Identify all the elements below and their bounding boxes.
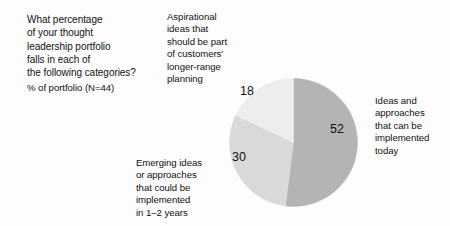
slice-label-aspirational: Aspirational ideas that should be part o… xyxy=(167,11,247,85)
slice-value-today: 52 xyxy=(330,123,344,136)
chart-canvas: What percentage of your thought leadersh… xyxy=(0,0,450,226)
slice-value-aspirational: 18 xyxy=(240,85,254,98)
chart-subtitle: % of portfolio (N=44) xyxy=(27,82,177,94)
page-title: What percentage of your thought leadersh… xyxy=(27,13,177,79)
pie-slice-today xyxy=(285,79,357,207)
slice-value-emerging: 30 xyxy=(232,151,246,164)
slice-label-emerging: Emerging ideas or approaches that could … xyxy=(136,157,234,219)
slice-label-today: Ideas and approaches that can be impleme… xyxy=(375,95,450,157)
